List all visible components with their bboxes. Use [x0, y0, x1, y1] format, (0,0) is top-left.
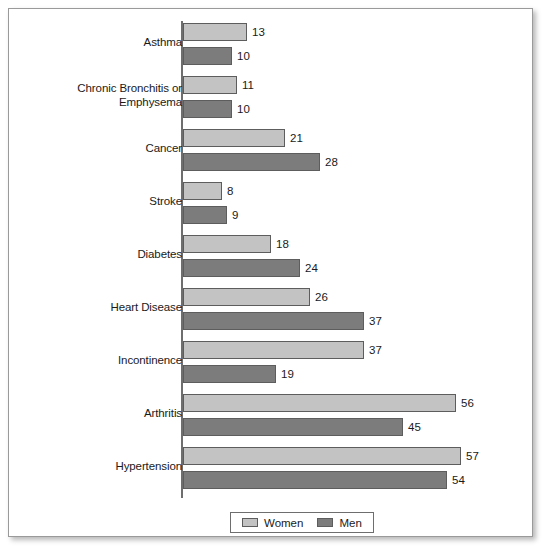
chart-row: Diabetes 18 24: [9, 235, 534, 283]
bar-value-men: 10: [237, 47, 250, 65]
legend-item-women: Women: [242, 517, 303, 529]
bar-value-men: 9: [232, 206, 238, 224]
category-label: Asthma: [144, 36, 182, 50]
chart-screenshot: Asthma 13 10 Chronic Bronchitis or Emphy…: [0, 0, 542, 557]
category-label: Arthritis: [144, 407, 182, 421]
bar-women: [183, 235, 271, 253]
bar-men: [183, 259, 300, 277]
bar-value-men: 37: [369, 312, 382, 330]
chart-row: Hypertension 57 54: [9, 447, 534, 495]
bar-value-women: 56: [461, 394, 474, 412]
bar-women: [183, 341, 364, 359]
bar-value-women: 8: [227, 182, 233, 200]
chart-legend: Women Men: [230, 512, 374, 533]
bar-value-men: 19: [281, 365, 294, 383]
bar-women: [183, 76, 237, 94]
chart-row: Chronic Bronchitis or Emphysema 11 10: [9, 76, 534, 124]
bar-men: [183, 365, 276, 383]
bar-men: [183, 418, 403, 436]
bar-women: [183, 182, 222, 200]
bar-value-men: 10: [237, 100, 250, 118]
chart-row: Arthritis 56 45: [9, 394, 534, 442]
bar-value-men: 54: [452, 471, 465, 489]
bar-men: [183, 47, 232, 65]
category-label: Stroke: [149, 195, 182, 209]
bar-men: [183, 100, 232, 118]
bar-value-women: 37: [369, 341, 382, 359]
bar-women: [183, 394, 456, 412]
bar-women: [183, 23, 247, 41]
legend-label-men: Men: [339, 517, 361, 529]
bar-value-women: 11: [242, 76, 254, 94]
bar-value-women: 18: [276, 235, 289, 253]
chart-row: Cancer 21 28: [9, 129, 534, 177]
bar-men: [183, 153, 320, 171]
plot-area: Asthma 13 10 Chronic Bronchitis or Emphy…: [9, 9, 534, 538]
category-label: Cancer: [146, 142, 182, 156]
bar-men: [183, 206, 227, 224]
category-label: Incontinence: [118, 354, 182, 368]
chart-frame: Asthma 13 10 Chronic Bronchitis or Emphy…: [8, 8, 533, 537]
bar-value-women: 26: [315, 288, 328, 306]
category-label: Diabetes: [137, 248, 182, 262]
bar-value-men: 24: [305, 259, 318, 277]
category-label: Hypertension: [115, 460, 182, 474]
category-label: Chronic Bronchitis or Emphysema: [77, 82, 182, 109]
chart-row: Heart Disease 26 37: [9, 288, 534, 336]
bar-women: [183, 447, 461, 465]
bar-value-women: 21: [290, 129, 303, 147]
legend-item-men: Men: [317, 517, 361, 529]
bar-men: [183, 312, 364, 330]
bar-value-men: 28: [325, 153, 338, 171]
bar-value-men: 45: [408, 418, 421, 436]
bar-women: [183, 129, 285, 147]
bar-value-women: 13: [252, 23, 265, 41]
category-label: Heart Disease: [110, 301, 182, 315]
bar-value-women: 57: [466, 447, 479, 465]
bar-men: [183, 471, 447, 489]
bar-women: [183, 288, 310, 306]
legend-label-women: Women: [264, 517, 303, 529]
chart-row: Asthma 13 10: [9, 23, 534, 71]
legend-swatch-men-icon: [317, 518, 333, 527]
chart-row: Stroke 8 9: [9, 182, 534, 230]
chart-row: Incontinence 37 19: [9, 341, 534, 389]
legend-swatch-women-icon: [242, 518, 258, 527]
